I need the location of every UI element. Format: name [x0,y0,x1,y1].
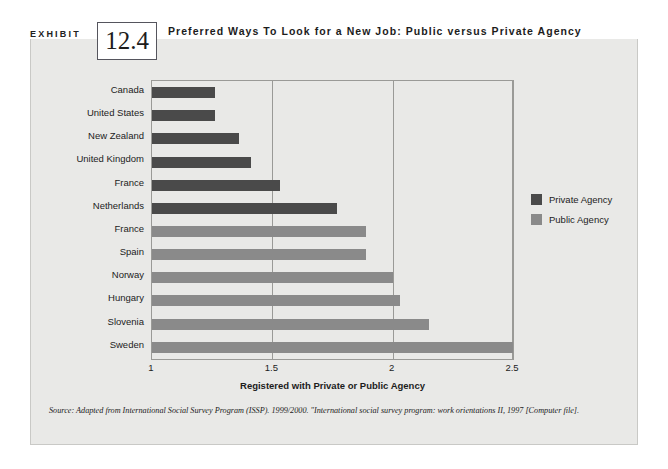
chart-x-axis-title: Registered with Private or Public Agency [151,380,514,391]
chart-bar-row: United States [152,104,513,127]
source-note: Source: Adapted from International Socia… [49,405,624,417]
exhibit-number: 12.4 [98,23,156,59]
exhibit-panel: CanadaUnited StatesNew ZealandUnited Kin… [30,39,638,445]
chart-bar [152,157,251,168]
chart-category-label: Spain [120,246,144,257]
chart-bar [152,295,400,306]
chart-bar-row: Hungary [152,289,513,312]
chart-category-label: France [114,177,144,188]
chart-category-label: France [114,223,144,234]
chart-bar-row: France [152,220,513,243]
legend-item: Public Agency [531,214,612,225]
exhibit-figure: EXHIBIT 12.4 Preferred Ways To Look for … [0,0,668,469]
chart-bar [152,226,366,237]
chart-bar-row: France [152,174,513,197]
chart-category-label: Slovenia [108,316,144,327]
legend-swatch-icon [531,194,542,205]
chart-category-label: Netherlands [93,200,144,211]
chart-category-label: Hungary [108,292,144,303]
chart-x-tick-label: 1.5 [265,362,278,373]
chart-bar [152,272,393,283]
chart-bar-row: New Zealand [152,127,513,150]
exhibit-title: Preferred Ways To Look for a New Job: Pu… [168,25,648,37]
chart-category-label: United Kingdom [76,153,144,164]
chart-bar [152,203,337,214]
chart-category-label: Norway [112,269,144,280]
chart-bar [152,180,280,191]
chart-x-tick-label: 2 [389,362,394,373]
chart-plot-area: CanadaUnited StatesNew ZealandUnited Kin… [151,80,514,360]
chart-bar [152,133,239,144]
chart-x-tick-label: 1 [148,362,153,373]
chart-bar [152,87,215,98]
chart-bar [152,249,366,260]
chart-bar [152,342,513,353]
legend-item: Private Agency [531,194,612,205]
chart-bar-row: Spain [152,243,513,266]
chart-bar-row: Slovenia [152,313,513,336]
chart-bar [152,110,215,121]
chart-bar [152,319,429,330]
exhibit-number-box: 12.4 [97,22,157,60]
chart-bar-row: United Kingdom [152,150,513,173]
chart-bars: CanadaUnited StatesNew ZealandUnited Kin… [152,81,513,359]
legend-label: Private Agency [549,194,612,205]
chart-category-label: Sweden [110,339,144,350]
exhibit-label: EXHIBIT [30,29,81,39]
chart-category-label: United States [87,107,144,118]
chart-category-label: New Zealand [88,130,144,141]
chart-bar-row: Canada [152,81,513,104]
chart-legend: Private AgencyPublic Agency [531,194,612,234]
chart-bar-row: Netherlands [152,197,513,220]
chart-bar-row: Norway [152,266,513,289]
chart-bar-row: Sweden [152,336,513,359]
chart-x-tick-label: 2.5 [505,362,518,373]
legend-swatch-icon [531,214,542,225]
legend-label: Public Agency [549,214,609,225]
chart-category-label: Canada [111,84,144,95]
